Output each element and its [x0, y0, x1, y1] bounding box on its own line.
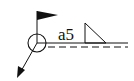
welding-symbol-svg: a5 — [0, 0, 134, 81]
fillet-weld-symbol-icon — [85, 23, 106, 43]
field-weld-flag-icon — [37, 11, 58, 20]
weld-size-label: a5 — [58, 25, 74, 44]
welding-symbol-diagram: a5 — [0, 0, 134, 81]
arrow-line — [20, 43, 37, 73]
arrow-head-icon — [17, 66, 25, 78]
